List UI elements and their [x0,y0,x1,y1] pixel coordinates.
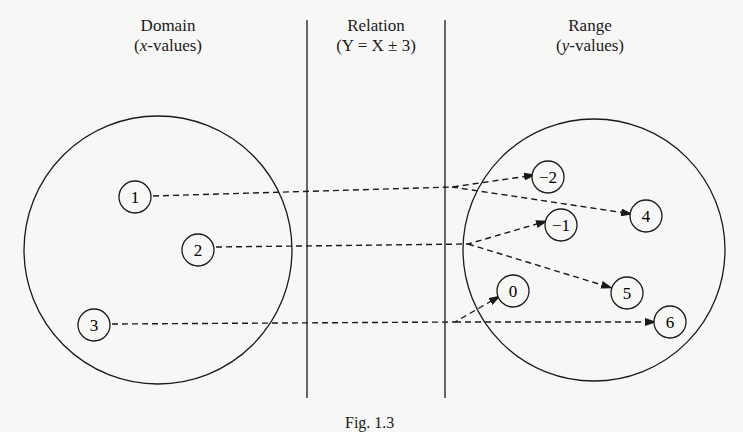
domain-node-2: 2 [182,234,214,266]
arrow-3-to-0 [112,296,500,324]
svg-text:4: 4 [642,207,651,226]
range-node-6: 6 [654,306,686,338]
svg-text:5: 5 [623,284,632,303]
svg-text:−1: −1 [552,216,570,235]
svg-text:3: 3 [90,316,99,335]
arrow-1-to-neg2 [153,175,535,196]
svg-text:6: 6 [666,313,675,332]
arrow-2-to-5 [468,244,612,288]
range-node-neg2: −2 [532,161,564,193]
domain-node-3: 3 [78,309,110,341]
range-node-0: 0 [497,275,529,307]
range-node-4: 4 [630,200,662,232]
domain-set [24,116,292,384]
range-node-5: 5 [611,277,643,309]
range-node-neg1: −1 [545,209,577,241]
svg-text:1: 1 [131,188,140,207]
domain-node-1: 1 [119,181,151,213]
svg-text:0: 0 [509,282,518,301]
figure-caption: Fig. 1.3 [345,414,394,432]
svg-text:2: 2 [194,241,203,260]
range-set [463,119,725,381]
arrow-2-to-neg1 [216,221,547,247]
svg-text:−2: −2 [539,168,557,187]
